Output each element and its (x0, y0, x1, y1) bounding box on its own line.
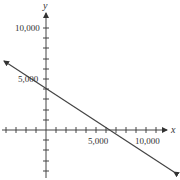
coordinate-plane: y x 10,000 5,000 5,000 10,000 (0, 0, 180, 180)
y-tick-label-5000: 5,000 (18, 74, 39, 84)
x-axis-label: x (170, 124, 176, 135)
x-tick-label-5000: 5,000 (88, 136, 109, 146)
y-axis-label: y (42, 0, 48, 11)
x-tick-label-10000: 10,000 (135, 136, 160, 146)
y-tick-label-10000: 10,000 (15, 23, 40, 33)
